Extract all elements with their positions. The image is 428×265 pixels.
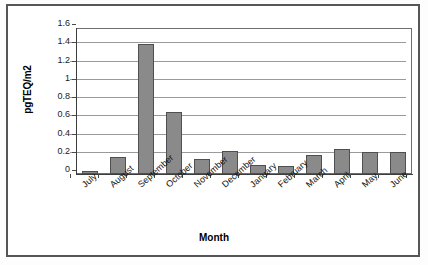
figure-outer-border: 00.20.40.60.811.21.41.6 JulyAugustSeptem…: [6, 4, 420, 257]
y-axis-tick: [72, 24, 76, 25]
x-axis-tick: [70, 174, 71, 178]
y-axis-title: pgTEQ/m2: [22, 50, 33, 130]
y-axis-tick-labels: 00.20.40.60.811.21.41.6: [24, 6, 70, 265]
bar: [362, 152, 378, 174]
y-axis-tick-label: 1.4: [26, 37, 70, 46]
bar: [334, 149, 350, 174]
bar: [138, 44, 154, 174]
bar-series: [76, 28, 412, 174]
figure-root: 00.20.40.60.811.21.41.6 JulyAugustSeptem…: [0, 0, 428, 265]
y-axis-tick-label: 1.6: [26, 19, 70, 28]
y-axis-tick-label: 1: [26, 74, 70, 83]
y-axis-tick-label: 0.2: [26, 147, 70, 156]
y-axis-tick-label: 0.6: [26, 110, 70, 119]
y-axis-tick-label: 0: [26, 165, 70, 174]
y-axis-tick-label: 0.4: [26, 129, 70, 138]
x-axis-title: Month: [0, 232, 428, 243]
y-axis-tick-label: 1.2: [26, 56, 70, 65]
y-axis-tick-label: 0.8: [26, 92, 70, 101]
